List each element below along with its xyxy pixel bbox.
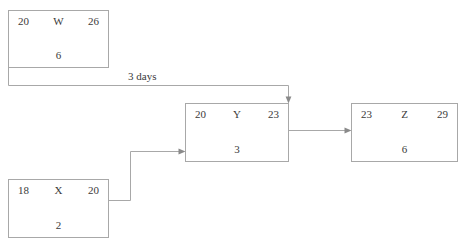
node-z-bottom-row: 6 — [352, 139, 457, 157]
edge-label-w-to-y: 3 days — [128, 70, 156, 83]
network-diagram-canvas: 20 W 26 6 18 X 20 2 20 Y 23 3 23 — [0, 0, 462, 245]
node-y-bottom-row: 3 — [186, 139, 288, 157]
node-x[interactable]: 18 X 20 2 — [8, 179, 109, 238]
node-y-early-start: 20 — [195, 108, 206, 121]
node-x-early-start: 18 — [18, 184, 29, 197]
node-y-duration: 3 — [234, 143, 240, 155]
node-z-duration: 6 — [402, 143, 408, 155]
node-w[interactable]: 20 W 26 6 — [8, 10, 109, 68]
node-x-top-row: 18 X 20 — [9, 184, 108, 197]
node-w-bottom-row: 6 — [9, 45, 108, 63]
node-z-early-start: 23 — [361, 108, 372, 121]
node-z-top-row: 23 Z 29 — [352, 108, 457, 121]
node-w-top-row: 20 W 26 — [9, 15, 108, 28]
node-w-duration: 6 — [56, 49, 62, 61]
node-z[interactable]: 23 Z 29 6 — [351, 103, 458, 162]
node-w-early-start: 20 — [18, 15, 29, 28]
edge-x-to-y — [109, 152, 182, 201]
node-x-early-finish: 20 — [88, 184, 99, 197]
node-w-early-finish: 26 — [88, 15, 99, 28]
node-y-top-row: 20 Y 23 — [186, 108, 288, 121]
node-y-early-finish: 23 — [268, 108, 279, 121]
node-y[interactable]: 20 Y 23 3 — [185, 103, 289, 162]
node-x-bottom-row: 2 — [9, 215, 108, 233]
node-y-label: Y — [233, 108, 241, 121]
node-z-early-finish: 29 — [437, 108, 448, 121]
node-x-label: X — [55, 184, 63, 197]
node-w-label: W — [53, 15, 63, 28]
node-z-label: Z — [401, 108, 408, 121]
node-x-duration: 2 — [56, 219, 62, 231]
